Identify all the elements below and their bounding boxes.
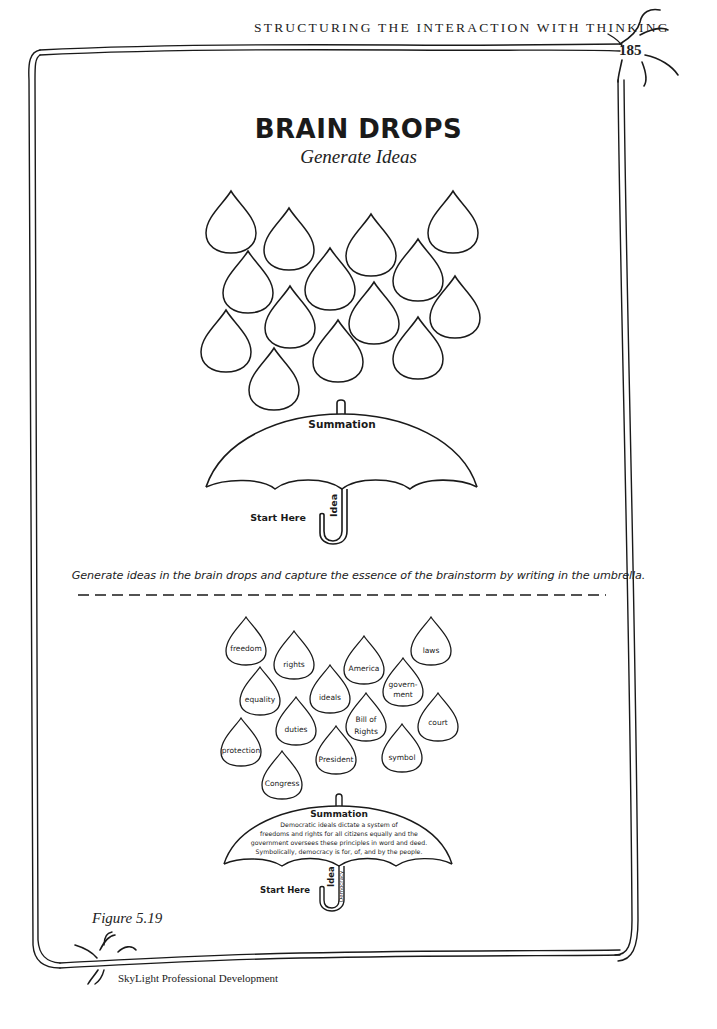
drop-label-bill-of-rights-1: Bill of <box>355 715 376 724</box>
drop-label-rights: rights <box>283 660 305 669</box>
drop-label-president: President <box>319 755 354 764</box>
drop-label-government-1: govern- <box>389 680 418 689</box>
example-summation-label: Summation <box>310 809 368 819</box>
footer-publisher: SkyLight Professional Development <box>118 972 278 984</box>
summation-line-3: government oversees these principles in … <box>251 839 427 847</box>
drop-label-government-2: ment <box>393 690 413 699</box>
summation-line-2: freedoms and rights for all citizens equ… <box>260 830 418 838</box>
drop-label-america: America <box>349 664 380 673</box>
figure-caption: Figure 5.19 <box>92 910 162 927</box>
drop-label-duties: duties <box>284 725 307 734</box>
drop-label-laws: laws <box>423 646 440 655</box>
drop-label-equality: equality <box>245 695 276 704</box>
summation-line-1: Democratic ideals dictate a system of <box>280 821 398 829</box>
example-brain-drops-organizer: freedom rights America laws equality ide… <box>0 0 717 1029</box>
drop-label-court: court <box>428 718 448 727</box>
drop-label-freedom: freedom <box>230 644 261 653</box>
drop-label-protection: protection <box>222 746 261 755</box>
example-idea-label: Idea <box>326 866 336 887</box>
drop-label-congress: Congress <box>265 779 300 788</box>
drop-label-bill-of-rights-2: Rights <box>354 727 378 736</box>
drop-label-ideals: ideals <box>319 693 341 702</box>
example-start-here-label: Start Here <box>260 885 310 895</box>
summation-line-4: Symbolically, democracy is for, of, and … <box>256 848 423 856</box>
example-idea-value: Democracy <box>338 870 345 902</box>
drop-label-symbol: symbol <box>388 753 415 762</box>
